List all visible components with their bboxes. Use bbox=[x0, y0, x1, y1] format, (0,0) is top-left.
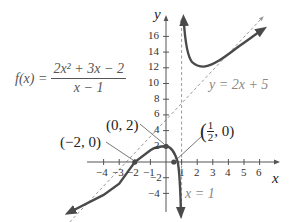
y-tick-label: 8 bbox=[154, 92, 160, 104]
x-tick-label: 1 bbox=[179, 166, 185, 178]
y-tick-label: −4 bbox=[148, 187, 160, 199]
leader-0-2 bbox=[140, 124, 164, 144]
x-tick-label: −3 bbox=[112, 166, 124, 178]
y-tick-label: 16 bbox=[148, 29, 159, 41]
paren-close: , 0) bbox=[214, 123, 234, 140]
graph-figure: f(x) = 2x² + 3x − 2 x − 1 y x −4 −3 −2 −… bbox=[0, 0, 292, 222]
vertical-asymptote-label: x = 1 bbox=[185, 186, 215, 202]
leader-half-0 bbox=[176, 136, 202, 160]
y-tick-label: 2 bbox=[154, 139, 160, 151]
y-tick-label: 4 bbox=[154, 123, 160, 135]
graph-canvas bbox=[0, 0, 292, 222]
point-0-2 bbox=[163, 144, 168, 149]
x-tick-label: −4 bbox=[96, 166, 108, 178]
paren-open: ( bbox=[200, 120, 207, 143]
x-tick-label: 4 bbox=[225, 166, 231, 178]
y-tick-label: −2 bbox=[150, 171, 162, 183]
point-half-0 bbox=[171, 159, 176, 164]
x-tick-label: 6 bbox=[256, 166, 262, 178]
function-label: f(x) = 2x² + 3x − 2 x − 1 bbox=[15, 61, 126, 96]
x-tick-label: 2 bbox=[194, 166, 200, 178]
half-denominator: 2 bbox=[208, 132, 214, 143]
numerator: 2x² + 3x − 2 bbox=[51, 61, 126, 79]
point-label-neg2-0: (−2, 0) bbox=[60, 134, 101, 151]
half-fraction: 1 2 bbox=[207, 120, 215, 143]
function-fraction: 2x² + 3x − 2 x − 1 bbox=[51, 61, 126, 96]
point-label-half-0: ( 1 2 , 0) bbox=[200, 120, 234, 143]
denominator: x − 1 bbox=[74, 79, 104, 96]
slant-asymptote-label: y = 2x + 5 bbox=[209, 77, 268, 93]
y-tick-label: 12 bbox=[148, 60, 159, 72]
x-tick-label: 5 bbox=[241, 166, 247, 178]
curve-right-branch bbox=[184, 20, 262, 67]
point-neg2-0 bbox=[132, 159, 137, 164]
curve-left-branch bbox=[70, 146, 181, 213]
leader-neg2-0 bbox=[106, 142, 133, 160]
y-tick-label: 14 bbox=[148, 45, 159, 57]
x-tick-label: −2 bbox=[127, 166, 139, 178]
function-name: f(x) = bbox=[15, 71, 47, 87]
y-axis-label: y bbox=[154, 6, 161, 23]
y-tick-label: 10 bbox=[148, 76, 159, 88]
x-axis-label: x bbox=[272, 170, 279, 187]
y-tick-label: 6 bbox=[154, 107, 160, 119]
x-tick-label: 3 bbox=[210, 166, 216, 178]
point-label-0-2: (0, 2) bbox=[106, 117, 139, 134]
